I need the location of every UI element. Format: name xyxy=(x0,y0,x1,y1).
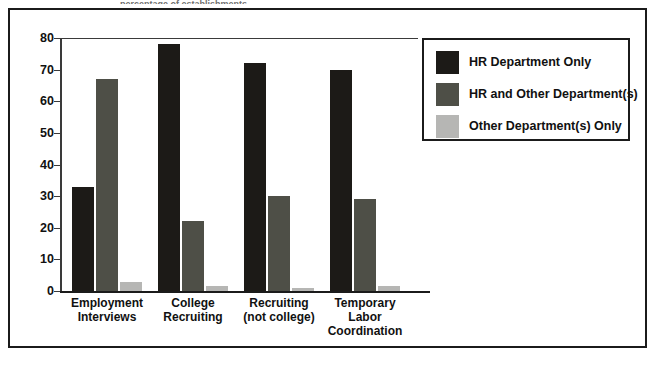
category-label-line: Labor xyxy=(310,310,420,324)
y-axis-tick-mark xyxy=(54,133,60,134)
bar xyxy=(292,288,314,291)
legend-swatch xyxy=(436,83,459,106)
x-axis-baseline xyxy=(60,291,430,293)
y-axis-tick-mark xyxy=(54,259,60,260)
y-axis-tick-label: 10 xyxy=(40,252,54,266)
bar xyxy=(182,221,204,291)
chart-legend: HR Department OnlyHR and Other Departmen… xyxy=(422,38,630,141)
category-label-line: Temporary xyxy=(310,296,420,310)
category-label: TemporaryLaborCoordination xyxy=(310,296,420,338)
y-axis-tick-label: 50 xyxy=(40,126,54,140)
chart-frame: 01020304050607080 EmploymentInterviewsCo… xyxy=(8,8,647,348)
bar xyxy=(330,70,352,291)
y-axis-tick-label: 60 xyxy=(40,94,54,108)
legend-label: HR Department Only xyxy=(469,55,591,69)
y-axis-tick-mark xyxy=(54,291,60,292)
bar xyxy=(120,282,142,291)
bar xyxy=(244,63,266,291)
y-axis-tick-mark xyxy=(54,165,60,166)
bar xyxy=(378,286,400,291)
y-axis-tick-mark xyxy=(54,228,60,229)
bar xyxy=(354,199,376,291)
y-axis-tick-mark xyxy=(54,196,60,197)
y-axis-tick-label: 70 xyxy=(40,63,54,77)
y-axis: 01020304050607080 xyxy=(10,10,54,350)
legend-swatch xyxy=(436,51,459,74)
cropped-caption-sliver: percentage of establishments xyxy=(120,0,380,4)
bar xyxy=(206,286,228,291)
y-axis-tick-label: 30 xyxy=(40,189,54,203)
legend-swatch xyxy=(436,115,459,138)
bar xyxy=(96,79,118,291)
bar xyxy=(158,44,180,291)
y-axis-tick-mark xyxy=(54,38,60,39)
y-axis-tick-mark xyxy=(54,70,60,71)
legend-label: HR and Other Department(s) xyxy=(469,87,638,101)
y-axis-tick-label: 80 xyxy=(40,31,54,45)
category-label-line: Coordination xyxy=(310,324,420,338)
legend-label: Other Department(s) Only xyxy=(469,119,622,133)
y-axis-tick-label: 40 xyxy=(40,158,54,172)
y-axis-tick-label: 20 xyxy=(40,221,54,235)
chart-page: percentage of establishments 01020304050… xyxy=(0,0,657,365)
y-axis-tick-mark xyxy=(54,101,60,102)
bar xyxy=(268,196,290,291)
bar xyxy=(72,187,94,291)
